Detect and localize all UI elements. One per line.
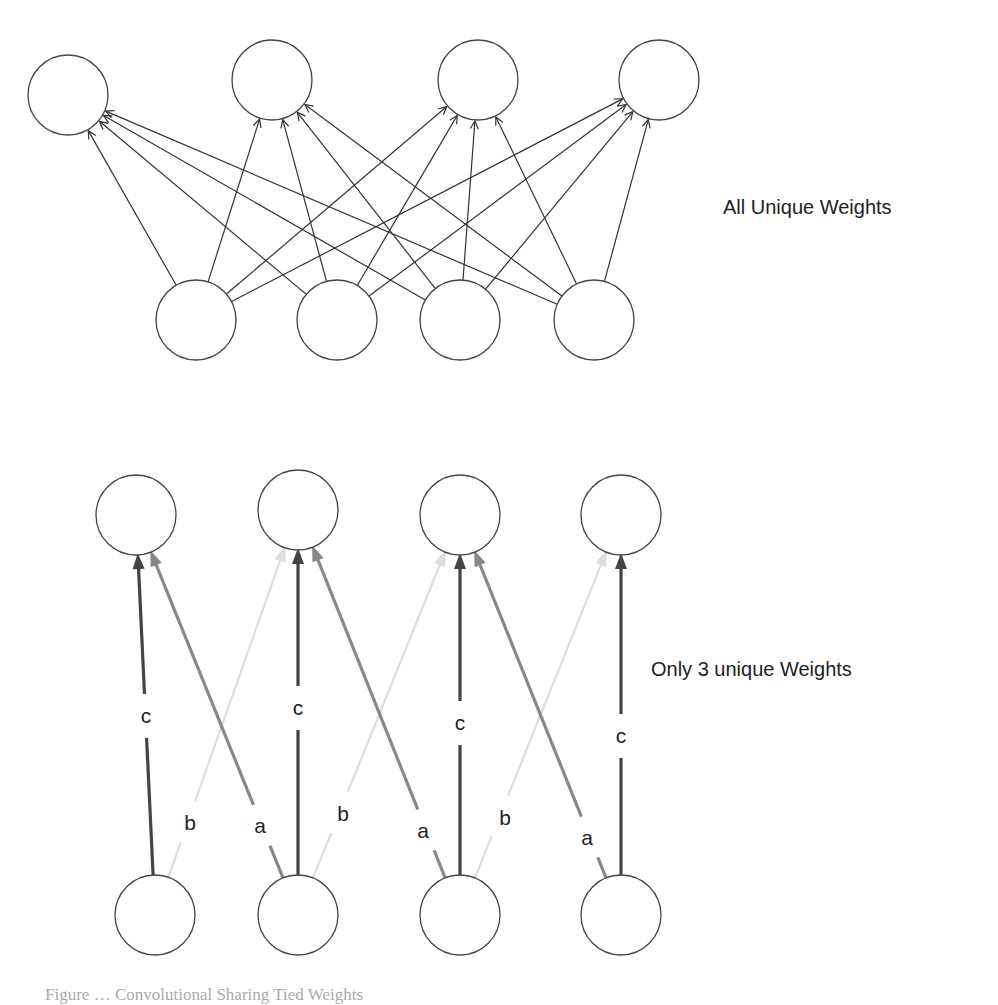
- fully-connected-network: [28, 40, 699, 360]
- weight-label-c: c: [616, 724, 627, 747]
- weight-label-c: c: [455, 711, 466, 734]
- input-neuron: [420, 875, 500, 955]
- output-neuron: [420, 475, 500, 555]
- input-neuron: [554, 280, 634, 360]
- connection-edge: [305, 105, 562, 297]
- arrowhead-icon: [312, 545, 324, 562]
- weight-edge-a: [270, 846, 283, 878]
- weight-edge-a: [434, 850, 445, 878]
- weight-label-b: b: [499, 806, 511, 829]
- weight-label-c: c: [141, 704, 152, 727]
- arrowhead-icon: [474, 550, 486, 567]
- weight-edge-a: [476, 556, 581, 817]
- connection-edge: [283, 120, 327, 282]
- connection-edge: [604, 120, 648, 282]
- connection-edge: [88, 131, 176, 286]
- input-neuron: [115, 875, 195, 955]
- arrowhead-icon: [150, 550, 162, 567]
- output-neuron: [619, 40, 699, 120]
- diagram-label-all-unique: All Unique Weights: [723, 196, 892, 219]
- weight-label-a: a: [254, 814, 266, 837]
- weight-edge-c: [138, 559, 144, 694]
- connection-edge: [104, 115, 426, 300]
- output-neuron: [258, 470, 338, 550]
- input-neuron: [297, 280, 377, 360]
- weight-label-b: b: [337, 802, 349, 825]
- output-neuron: [581, 475, 661, 555]
- diagram-label-shared: Only 3 unique Weights: [651, 658, 852, 681]
- weight-edge-a: [598, 857, 606, 878]
- connection-edge: [463, 121, 475, 280]
- arrowhead-icon: [434, 550, 446, 567]
- connection-edge: [106, 111, 558, 304]
- weight-label-c: c: [293, 696, 304, 719]
- connection-edge: [496, 117, 577, 284]
- weight-edge-b: [313, 833, 331, 878]
- output-neuron: [28, 55, 108, 135]
- connection-edge: [486, 112, 633, 290]
- weight-edge-b: [475, 836, 492, 878]
- weight-edge-b: [168, 843, 180, 877]
- input-neuron: [420, 280, 500, 360]
- arrowhead-icon: [595, 550, 607, 567]
- connection-edge: [226, 107, 446, 295]
- weight-label-a: a: [581, 826, 593, 849]
- weight-edge-c: [147, 738, 154, 875]
- weight-label-b: b: [184, 811, 196, 834]
- weight-edge-b: [508, 556, 604, 796]
- weight-label-a: a: [417, 819, 429, 842]
- connection-edge: [99, 121, 306, 294]
- weight-edge-b: [195, 551, 283, 801]
- connection-edge: [232, 99, 623, 302]
- input-neuron: [581, 875, 661, 955]
- input-neuron: [258, 875, 338, 955]
- input-neuron: [156, 280, 236, 360]
- arrowhead-icon: [274, 546, 285, 563]
- output-neuron: [232, 40, 312, 120]
- output-neuron: [96, 475, 176, 555]
- shared-weights-network: cbacbacbac: [96, 470, 661, 955]
- connection-edge: [297, 112, 435, 288]
- figure-caption: Figure … Convolutional Sharing Tied Weig…: [45, 985, 363, 1005]
- weight-edge-a: [314, 551, 417, 810]
- output-neuron: [438, 40, 518, 120]
